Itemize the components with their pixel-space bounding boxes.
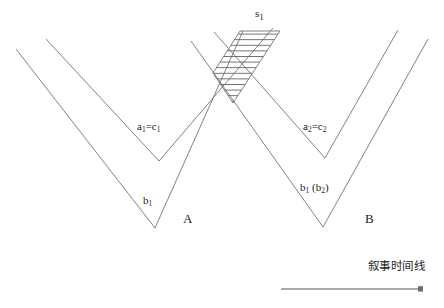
label-b1-b2-right: b1 (b2) — [300, 182, 329, 193]
label-group-a: A — [183, 212, 192, 225]
label-b2-right-subscript: 2 — [321, 186, 325, 195]
timeline-arrow-endpoint-marker — [418, 286, 423, 291]
label-b1-left-base: b — [143, 194, 149, 206]
label-c2: =c — [312, 120, 323, 132]
narrative-timeline-arrow — [281, 286, 423, 291]
label-c1: =c — [146, 120, 157, 132]
label-a2-equals-c2: a2=c2 — [303, 121, 326, 132]
label-group-b: B — [365, 212, 374, 225]
label-narrative-timeline: 叙事时间线 — [368, 261, 425, 273]
label-b2-right-base: (b — [309, 181, 321, 193]
label-a2-subscript: 2 — [308, 125, 312, 134]
figure-root: s1 a1=c1 a2=c2 b1 b1 (b2) A B 叙事时间线 — [0, 0, 444, 308]
label-c1-subscript: 1 — [157, 125, 161, 134]
label-s1-subscript: 1 — [259, 12, 264, 22]
label-s1: s1 — [255, 8, 264, 22]
label-c2-subscript: 2 — [323, 125, 327, 134]
label-a1-subscript: 1 — [142, 125, 146, 134]
label-b1-right-subscript: 1 — [306, 186, 310, 195]
label-b1-left: b1 — [143, 195, 152, 206]
label-b2-right-close-paren: ) — [325, 181, 329, 193]
label-a1-equals-c1: a1=c1 — [137, 121, 160, 132]
label-b1-left-subscript: 1 — [149, 199, 153, 208]
label-b1-right-base: b — [300, 181, 306, 193]
